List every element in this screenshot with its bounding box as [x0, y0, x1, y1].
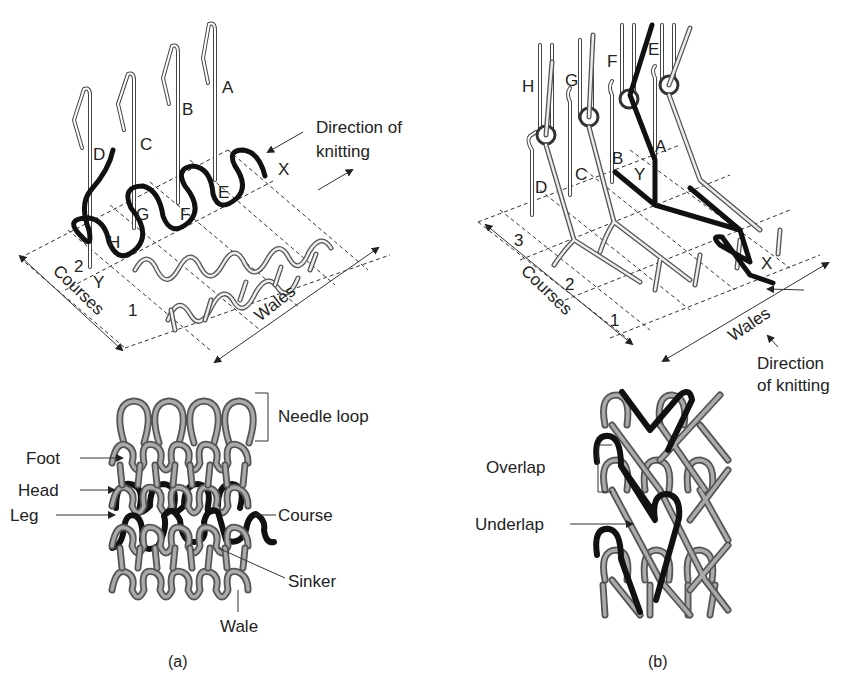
- needle-loop-bracket: [255, 393, 268, 441]
- warp-light-loops: [603, 395, 728, 615]
- label-wale: Wale: [220, 617, 258, 636]
- marker-y: Y: [93, 273, 104, 292]
- marker-x: X: [278, 160, 289, 179]
- label-underlap: Underlap: [475, 515, 544, 534]
- needle-loops-row: [120, 401, 253, 443]
- b-needle-label-b: B: [612, 149, 623, 168]
- guide-label-g: G: [565, 71, 578, 90]
- b-course-number-1: 1: [610, 311, 619, 330]
- b-needle-label-c: C: [575, 165, 587, 184]
- knitting-diagram: A B C D E F G H X Y 2 1 Courses Wales Di…: [0, 0, 849, 688]
- label-leg: Leg: [10, 506, 38, 525]
- panel-a-fabric: Needle loop Foot Head Leg Course Sinker …: [10, 393, 369, 670]
- loop-label-e: E: [218, 183, 229, 202]
- guide-label-e: E: [648, 40, 659, 59]
- b-marker-x: X: [761, 254, 772, 273]
- direction-arrow-in: [268, 132, 303, 152]
- label-head: Head: [18, 481, 59, 500]
- loop-label-f: F: [180, 205, 190, 224]
- panel-a-dark-yarn: [74, 150, 265, 256]
- course-number-1: 1: [128, 301, 137, 320]
- b-course-number-2: 2: [565, 275, 574, 294]
- direction-label-line2: knitting: [316, 142, 370, 161]
- label-overlap: Overlap: [486, 458, 546, 477]
- needle-label-a: A: [222, 78, 234, 97]
- guide-label-h: H: [522, 77, 534, 96]
- needle-label-d: D: [93, 145, 105, 164]
- b-direction-arrow: [768, 336, 778, 347]
- guide-label-f: F: [607, 52, 617, 71]
- b-marker-y: Y: [634, 165, 645, 184]
- b-direction-label-line1: Direction: [757, 354, 824, 373]
- needle-label-b: B: [182, 100, 193, 119]
- b-arrow-x: [768, 289, 804, 290]
- b-needle-label-d: D: [535, 178, 547, 197]
- direction-arrow-out: [318, 170, 352, 190]
- label-sinker: Sinker: [288, 572, 337, 591]
- loop-label-h: H: [108, 233, 120, 252]
- caption-a: (a): [168, 653, 188, 670]
- b-direction-label-line2: of knitting: [757, 376, 830, 395]
- loop-label-g: G: [136, 205, 149, 224]
- b-course-number-3: 3: [514, 231, 523, 250]
- caption-b: (b): [648, 653, 668, 670]
- panel-b-fabric: Overlap Underlap (b): [475, 392, 728, 670]
- panel-b-machine: E F G H A B C D Y X 3 2 1 Courses Wales …: [478, 25, 830, 395]
- panel-b-dark-yarn: [615, 25, 773, 283]
- needle-label-c: C: [140, 135, 152, 154]
- panel-a-lower-loops: [135, 241, 331, 330]
- b-needle-label-a: A: [655, 137, 667, 156]
- fabric-row-4: [112, 571, 248, 597]
- direction-label-line1: Direction of: [316, 118, 402, 137]
- label-foot: Foot: [26, 449, 60, 468]
- panel-a-machine: A B C D E F G H X Y 2 1 Courses Wales Di…: [20, 24, 402, 362]
- label-course: Course: [278, 506, 333, 525]
- label-needle-loop: Needle loop: [278, 407, 369, 426]
